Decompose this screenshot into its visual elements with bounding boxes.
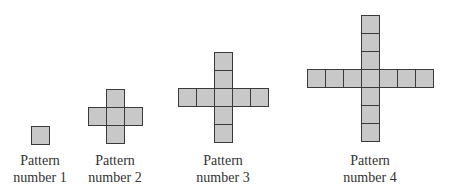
square-tile bbox=[196, 88, 215, 107]
square-tile bbox=[361, 87, 380, 106]
square-tile bbox=[214, 88, 233, 107]
square-tile bbox=[361, 105, 380, 124]
square-tile bbox=[361, 123, 380, 142]
pattern-2-label: Pattern number 2 bbox=[70, 152, 160, 186]
square-tile bbox=[124, 107, 143, 126]
square-tile bbox=[397, 69, 416, 88]
square-tile bbox=[415, 69, 434, 88]
square-tile bbox=[361, 15, 380, 34]
square-tile bbox=[343, 69, 362, 88]
square-tile bbox=[361, 51, 380, 70]
square-tile bbox=[325, 69, 344, 88]
square-tile bbox=[178, 88, 197, 107]
square-tile bbox=[214, 70, 233, 89]
square-tile bbox=[214, 124, 233, 143]
pattern-3-label: Pattern number 3 bbox=[178, 152, 268, 186]
square-tile bbox=[88, 107, 107, 126]
square-tile bbox=[361, 33, 380, 52]
square-tile bbox=[106, 89, 125, 108]
pattern-2-label-line2: number 2 bbox=[70, 169, 160, 186]
pattern-2-label-line1: Pattern bbox=[70, 152, 160, 169]
pattern-4-label-line1: Pattern bbox=[325, 152, 415, 169]
square-tile bbox=[214, 106, 233, 125]
square-tile bbox=[106, 107, 125, 126]
pattern-4-label: Pattern number 4 bbox=[325, 152, 415, 186]
square-tile bbox=[250, 88, 269, 107]
square-tile bbox=[106, 125, 125, 144]
square-tile bbox=[379, 69, 398, 88]
pattern-3-label-line1: Pattern bbox=[178, 152, 268, 169]
square-tile bbox=[307, 69, 326, 88]
square-tile bbox=[361, 69, 380, 88]
pattern-4-label-line2: number 4 bbox=[325, 169, 415, 186]
pattern-3-label-line2: number 3 bbox=[178, 169, 268, 186]
square-tile bbox=[214, 52, 233, 71]
square-tile bbox=[31, 126, 50, 145]
square-tile bbox=[232, 88, 251, 107]
